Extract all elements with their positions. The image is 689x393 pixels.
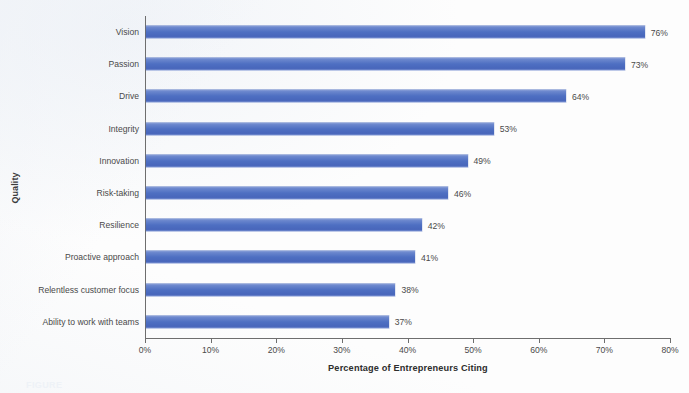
- category-label: Vision: [116, 27, 139, 37]
- bar[interactable]: 49%: [146, 154, 468, 167]
- x-axis-tick: [342, 338, 343, 343]
- bar-row: Vision76%: [145, 16, 670, 48]
- x-axis-tick-label: 20%: [268, 345, 285, 355]
- x-axis-tick: [145, 338, 146, 343]
- bar-row: Proactive approach41%: [145, 241, 670, 273]
- bar-value-label: 53%: [500, 124, 517, 134]
- x-axis-title: Percentage of Entrepreneurs Citing: [145, 363, 671, 373]
- bar[interactable]: 42%: [146, 219, 422, 232]
- bar-row: Integrity53%: [145, 113, 670, 145]
- category-label: Integrity: [108, 124, 139, 134]
- category-label: Relentless customer focus: [38, 285, 139, 295]
- bar-value-label: 46%: [454, 188, 471, 198]
- figure-page: Quality Vision76%Passion73%Drive64%Integ…: [0, 0, 689, 393]
- bar-row: Innovation49%: [145, 145, 670, 177]
- category-label: Drive: [119, 91, 139, 101]
- x-axis-tick: [473, 338, 474, 343]
- bar-value-label: 73%: [631, 59, 648, 69]
- bar[interactable]: 41%: [146, 251, 415, 264]
- x-axis-tick-label: 70%: [596, 345, 613, 355]
- plot-area: Vision76%Passion73%Drive64%Integrity53%I…: [145, 16, 670, 338]
- bar-row: Relentless customer focus38%: [145, 274, 670, 306]
- bar[interactable]: 37%: [146, 315, 389, 328]
- bar-value-label: 64%: [572, 91, 589, 101]
- bar[interactable]: 64%: [146, 90, 566, 103]
- bar[interactable]: 76%: [146, 26, 645, 39]
- bar-value-label: 49%: [474, 156, 491, 166]
- x-axis-tick: [670, 338, 671, 343]
- bar-value-label: 41%: [421, 252, 438, 262]
- category-label: Innovation: [99, 156, 139, 166]
- figure-caption: FIGURE: [26, 380, 62, 390]
- category-label: Passion: [108, 59, 139, 69]
- x-axis-tick-label: 60%: [530, 345, 547, 355]
- x-axis-tick-label: 10%: [202, 345, 219, 355]
- category-label: Risk-taking: [96, 188, 139, 198]
- x-axis-tick: [539, 338, 540, 343]
- bar-row: Risk-taking46%: [145, 177, 670, 209]
- x-axis-tick: [408, 338, 409, 343]
- bar-value-label: 37%: [395, 317, 412, 327]
- x-axis-tick-label: 80%: [661, 345, 678, 355]
- x-axis-tick-label: 30%: [333, 345, 350, 355]
- bar-value-label: 42%: [428, 220, 445, 230]
- x-axis-tick-label: 0%: [139, 345, 151, 355]
- category-label: Proactive approach: [65, 252, 139, 262]
- x-axis-tick-label: 40%: [399, 345, 416, 355]
- bar-value-label: 76%: [651, 27, 668, 37]
- category-label: Ability to work with teams: [43, 317, 139, 327]
- bar-row: Passion73%: [145, 48, 670, 80]
- category-label: Resilience: [99, 220, 139, 230]
- bar-chart: Quality Vision76%Passion73%Drive64%Integ…: [0, 0, 689, 393]
- bar[interactable]: 73%: [146, 58, 625, 71]
- bar[interactable]: 38%: [146, 283, 395, 296]
- bar-row: Drive64%: [145, 80, 670, 112]
- bar-value-label: 38%: [401, 285, 418, 295]
- x-axis-tick-label: 50%: [465, 345, 482, 355]
- y-axis-title: Quality: [10, 148, 20, 228]
- bar[interactable]: 53%: [146, 122, 494, 135]
- x-axis-tick: [276, 338, 277, 343]
- x-axis-tick: [604, 338, 605, 343]
- bar-row: Ability to work with teams37%: [145, 306, 670, 338]
- bar[interactable]: 46%: [146, 187, 448, 200]
- bar-row: Resilience42%: [145, 209, 670, 241]
- x-axis-tick: [211, 338, 212, 343]
